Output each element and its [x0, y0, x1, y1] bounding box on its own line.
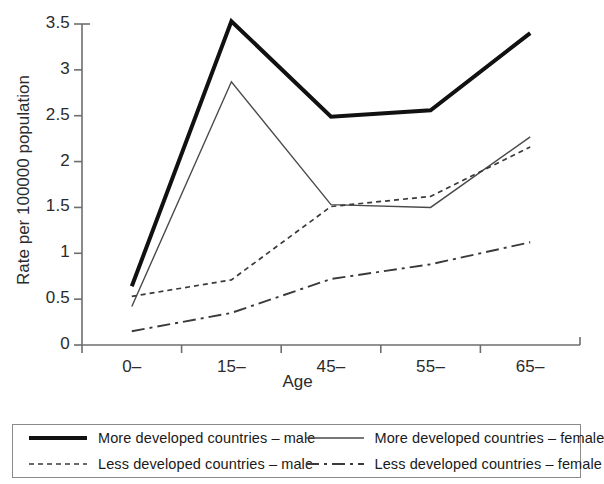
dashdot-line-swatch: [304, 457, 366, 471]
y-axis-title: Rate per 100000 population: [14, 60, 34, 300]
y-axis-ticks: [74, 24, 82, 345]
series-line-2: [132, 147, 530, 296]
x-axis-ticks: [82, 345, 480, 353]
y-axis-tick-label: 0: [24, 334, 70, 354]
y-axis-tick-label: 3.5: [24, 13, 70, 33]
legend-label: More developed countries – male: [98, 430, 316, 446]
legend-label: Less developed countries – female: [375, 456, 602, 472]
solid-thick-line-swatch: [27, 431, 89, 445]
series-line-3: [132, 242, 530, 331]
legend-label: Less developed countries – male: [98, 456, 313, 472]
legend-item: More developed countries – male: [13, 430, 304, 446]
legend-item: Less developed countries – male: [13, 456, 304, 472]
data-series-layer: [132, 21, 530, 331]
axis-lines: [82, 24, 580, 345]
plot-area: 00.511.522.533.5 0–15–45–55–65– Rate per…: [0, 0, 595, 400]
legend-row: More developed countries – maleMore deve…: [13, 425, 580, 451]
legend-item: Less developed countries – female: [304, 456, 581, 472]
legend-label: More developed countries – female: [375, 430, 604, 446]
dotted-line-swatch: [27, 457, 89, 471]
series-line-0: [132, 21, 530, 286]
legend-row: Less developed countries – maleLess deve…: [13, 451, 580, 477]
chart-canvas: [0, 0, 595, 400]
legend-item: More developed countries – female: [304, 430, 581, 446]
solid-thin-line-swatch: [304, 431, 366, 445]
x-axis-title: Age: [0, 372, 595, 392]
legend: More developed countries – maleMore deve…: [12, 424, 581, 478]
